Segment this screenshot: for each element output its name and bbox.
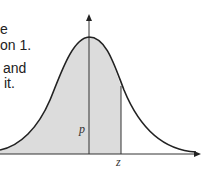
y-axis-arrow-icon [86, 14, 92, 21]
x-axis-arrow-icon [194, 151, 201, 157]
shaded-area [0, 37, 121, 154]
normal-curve-diagram: p z [0, 0, 201, 169]
z-label: z [115, 155, 121, 169]
area-label: p [78, 122, 85, 136]
